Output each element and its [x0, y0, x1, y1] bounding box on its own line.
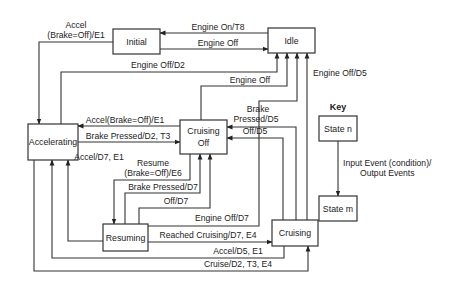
key-edge-label-line1: Input Event (condition)/ [343, 158, 432, 168]
key-state-n: State n [319, 116, 357, 141]
edge-label-accel-brake-off-e1: Accel(Brake=Off)/E1 [86, 115, 165, 125]
state-resuming: Resuming [103, 224, 148, 251]
state-diagram: Initial Idle Accelerating Cruising Off R… [0, 0, 456, 291]
state-label: Cruising [279, 228, 311, 238]
edge-label-resume-line2: (Brake=Off)/E6 [124, 168, 182, 178]
edge-label-off-d7: Off/D7 [164, 196, 189, 206]
state-idle: Idle [268, 28, 315, 53]
edge-cruising-to-cruisingoff-off [227, 138, 283, 220]
edge-label-engine-off-2: Engine Off [230, 75, 271, 85]
state-label: Resuming [106, 233, 146, 243]
key-title: Key [330, 102, 347, 112]
edge-label-resume-line1: Resume [137, 158, 169, 168]
edge-label-off-d5: Off/D5 [243, 126, 268, 136]
edge-label-accel-line2: (Brake=Off)/E1 [47, 30, 105, 40]
edge-label-brake-pressed-d7: Brake Pressed/D7 [128, 182, 198, 192]
state-label: Idle [284, 36, 298, 46]
edge-label-cruise-d2-t3-e4: Cruise/D2, T3, E4 [204, 259, 272, 269]
state-label-line2: Off [198, 138, 210, 148]
key-state-m: State m [319, 196, 357, 221]
edge-resuming-to-accelerating [68, 160, 103, 241]
edge-label-reached-cruising: Reached Cruising/D7, E4 [160, 230, 257, 240]
key-state-n-label: State n [324, 124, 352, 134]
edge-label-brake-pressed-d2-t3: Brake Pressed/D2, T3 [86, 131, 171, 141]
edge-cruising-to-cruisingoff-brake [227, 127, 296, 220]
key-edge-label-line2: Output Events [360, 168, 414, 178]
edge-cruisingoff-to-idle [201, 53, 287, 120]
state-initial: Initial [113, 29, 160, 54]
state-cruising: Cruising [272, 220, 318, 246]
edge-label-accel-d5-e1: Accel/D5, E1 [213, 246, 263, 256]
edge-label-engine-off-d5: Engine Off/D5 [313, 68, 367, 78]
edge-label-engine-off-d2: Engine Off/D2 [131, 60, 185, 70]
edge-label-accel-line1: Accel [65, 20, 86, 30]
edge-label-engine-on-t8: Engine On/T8 [191, 22, 244, 32]
edge-label-engine-off-1: Engine Off [198, 38, 239, 48]
edge-label-accel-d7-e1: Accel/D7, E1 [74, 152, 124, 162]
edge-label-brake-pressed-d5-line1: Brake [247, 104, 270, 114]
state-label: Accelerating [29, 137, 78, 147]
state-label: Initial [126, 37, 147, 47]
edge-label-engine-off-d7: Engine Off/D7 [195, 213, 249, 223]
edge-label-brake-pressed-d5-line2: Pressed/D5 [234, 114, 279, 124]
state-cruising-off: Cruising Off [180, 120, 227, 154]
edge-initial-to-accelerating [39, 42, 113, 124]
state-accelerating: Accelerating [28, 124, 78, 160]
key-state-m-label: State m [323, 204, 353, 214]
state-label-line1: Cruising [187, 126, 219, 136]
